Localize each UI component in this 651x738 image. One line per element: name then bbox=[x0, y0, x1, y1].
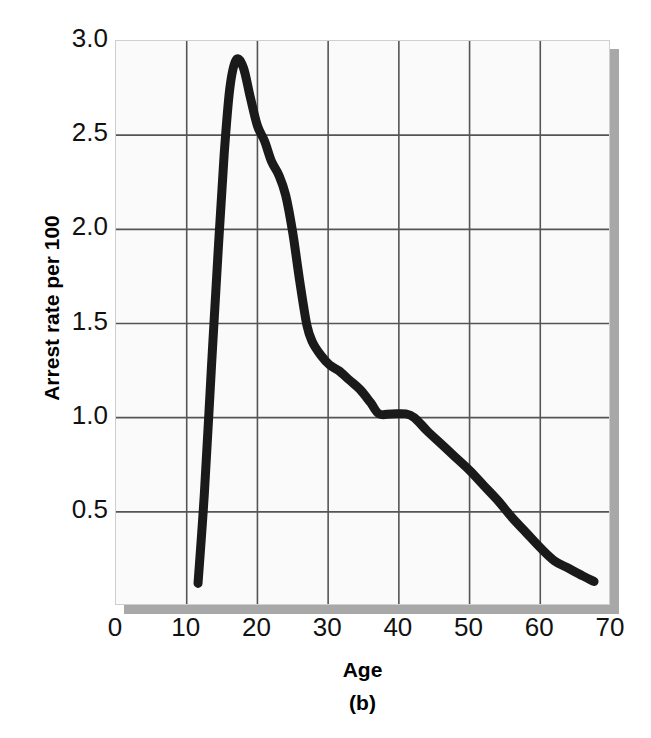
y-gridlines bbox=[116, 135, 610, 512]
x-tick-label: 20 bbox=[226, 612, 286, 643]
x-tick-label: 40 bbox=[368, 612, 428, 643]
y-axis-title: Arrest rate per 100 bbox=[40, 178, 64, 438]
x-tick-label: 30 bbox=[297, 612, 357, 643]
y-tick-label: 3.0 bbox=[46, 23, 108, 54]
x-tick-label: 10 bbox=[156, 612, 216, 643]
chart-canvas bbox=[116, 41, 610, 605]
y-tick-label: 0.5 bbox=[46, 494, 108, 525]
panel-label: (b) bbox=[115, 691, 610, 715]
x-axis-title: Age bbox=[115, 658, 610, 682]
figure-panel-b: 0.51.01.52.02.53.0 010203040506070 Arres… bbox=[0, 0, 651, 738]
plot-area bbox=[115, 40, 610, 605]
y-tick-label: 2.5 bbox=[46, 117, 108, 148]
x-axis-ticks: 010203040506070 bbox=[0, 612, 651, 658]
x-tick-label: 0 bbox=[85, 612, 145, 643]
x-tick-label: 60 bbox=[509, 612, 569, 643]
x-tick-label: 70 bbox=[580, 612, 640, 643]
x-tick-label: 50 bbox=[439, 612, 499, 643]
